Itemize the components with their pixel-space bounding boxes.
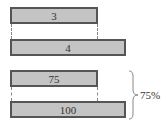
bar-100-label: 100 [60, 104, 77, 116]
dashed-guide-right [97, 24, 98, 39]
bar-75-label: 75 [49, 73, 60, 85]
dashed-guide-right-2 [97, 87, 98, 101]
dashed-guide-left-2 [11, 87, 12, 101]
bar-4-label: 4 [65, 42, 71, 54]
curly-brace-icon [128, 70, 140, 120]
bar-75: 75 [10, 70, 98, 87]
bar-4: 4 [10, 39, 126, 56]
bar-3-label: 3 [51, 10, 57, 22]
bar-100: 100 [10, 101, 126, 118]
dashed-guide-left [11, 24, 12, 39]
ratio-label: 75% [140, 89, 160, 101]
bar-3: 3 [10, 7, 98, 24]
